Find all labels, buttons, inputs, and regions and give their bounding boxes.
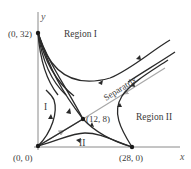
label-0-32: (0, 32) xyxy=(8,29,32,39)
point-12-8 xyxy=(81,117,85,121)
y-axis-label: y xyxy=(40,11,46,22)
x-axis-label: x xyxy=(179,151,185,162)
region-1-label: Region I xyxy=(64,29,97,39)
label-28-0: (28, 0) xyxy=(119,153,143,163)
trajectory-origin-saddle xyxy=(38,119,83,146)
point-0-0 xyxy=(36,144,40,148)
point-28-0 xyxy=(130,145,134,149)
sub-region-1-label: I xyxy=(44,102,47,112)
label-12-8: (12, 8) xyxy=(86,114,110,124)
label-0-0: (0, 0) xyxy=(13,153,33,163)
phase-portrait-diagram: y x Separatrix (0, xyxy=(0,0,191,169)
point-0-32 xyxy=(36,31,40,35)
region-2-label: Region II xyxy=(136,112,172,122)
trajectories-region1 xyxy=(38,33,175,119)
sub-region-2-label: II xyxy=(79,138,85,148)
